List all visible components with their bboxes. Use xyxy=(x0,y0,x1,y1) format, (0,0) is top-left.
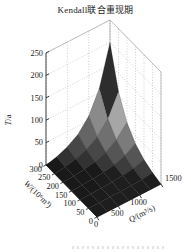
tick-label: 50 xyxy=(35,138,43,147)
figure-container: Kendall联合重现期 050100150200250T/a050100150… xyxy=(0,0,191,252)
tick-label: 300 xyxy=(30,165,42,174)
tick-label: 150 xyxy=(31,94,43,103)
t-axis-label: T/a xyxy=(3,114,13,125)
tick-label: 250 xyxy=(38,173,50,182)
t-axis: 050100150200250T/a xyxy=(3,49,49,170)
tick-label: 50 xyxy=(76,208,84,217)
tick-label: 100 xyxy=(31,116,43,125)
tick-label: 100 xyxy=(64,199,76,208)
tick-label: 200 xyxy=(47,182,59,191)
tick-label: 250 xyxy=(31,49,43,58)
tick-label: 1500 xyxy=(165,174,182,183)
surface-plot: 050100150200250T/a050100150200250300W/(1… xyxy=(0,0,191,252)
tick-label: 0 xyxy=(89,217,93,226)
tick-label: 1000 xyxy=(130,198,147,207)
tick-label: 150 xyxy=(55,191,67,200)
tick-label: 200 xyxy=(31,71,43,80)
cropped-caption xyxy=(72,246,164,249)
tick-label: 0 xyxy=(94,220,98,229)
tick-label: 500 xyxy=(111,209,123,218)
